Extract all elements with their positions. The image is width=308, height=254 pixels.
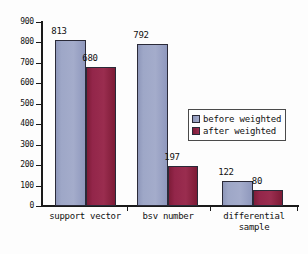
y-tick-label-0: 0 [29,202,34,210]
bar-after-bsv-number [168,166,198,206]
y-tick-0 [36,206,42,207]
value-label-before-support-vector: 813 [44,27,74,36]
legend-swatch-before-weighted [192,115,200,123]
value-label-after-bsv-number: 197 [157,153,187,162]
bar-after-differential-sample [253,190,283,206]
y-tick-label-600: 600 [20,79,34,87]
bar-before-support-vector [55,40,86,206]
value-label-before-differential-sample: 122 [211,168,241,177]
legend-label-before-weighted: before weighted [203,114,281,124]
bar-chart: 900 800 700 600 500 400 300 200 100 0 81… [0,0,308,254]
legend-label-after-weighted: after weighted [203,126,276,136]
y-tick-label-200: 200 [20,161,34,169]
y-tick-label-300: 300 [20,141,34,149]
y-tick-label-500: 500 [20,100,34,108]
y-tick-label-400: 400 [20,120,34,128]
category-label-bsv-number: bsv number [125,211,211,222]
y-tick-label-900: 900 [20,18,34,26]
category-label-support-vector: support vector [42,211,128,222]
value-label-after-support-vector: 680 [75,54,105,63]
legend-swatch-after-weighted [192,127,200,135]
y-tick-label-100: 100 [20,182,34,190]
category-label-differential-sample: differential sample [210,211,298,233]
legend-item-before-weighted: before weighted [192,113,281,125]
value-label-after-differential-sample: 80 [242,177,272,186]
legend-item-after-weighted: after weighted [192,125,281,137]
y-tick-label-800: 800 [20,38,34,46]
chart-legend: before weighted after weighted [188,109,286,141]
bar-before-bsv-number [137,44,168,206]
value-label-before-bsv-number: 792 [126,31,156,40]
y-tick-label-700: 700 [20,59,34,67]
bar-after-support-vector [86,67,116,206]
